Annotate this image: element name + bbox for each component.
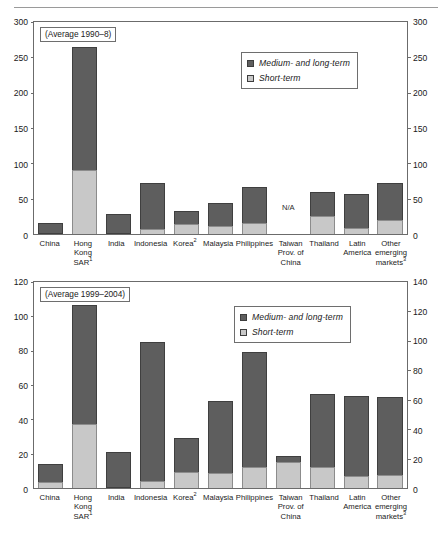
ytick-label-left: 100 bbox=[14, 313, 28, 322]
ytick-label-right: 150 bbox=[413, 125, 427, 134]
ytick-right bbox=[407, 128, 411, 129]
segment-short-term bbox=[208, 473, 233, 488]
category-line: Thailand bbox=[309, 493, 339, 502]
segment-medium-long-term bbox=[310, 192, 335, 216]
category-label: TaiwanProv. ofChina bbox=[274, 239, 307, 267]
stacked-bar bbox=[106, 452, 131, 488]
category-line: Other bbox=[381, 493, 400, 502]
category-label: Malaysia bbox=[202, 493, 235, 521]
segment-short-term bbox=[72, 424, 97, 488]
legend-swatch-icon bbox=[240, 314, 247, 321]
bar-slot bbox=[68, 282, 102, 488]
legend-item-medium-long-term: Medium- and long-term bbox=[240, 311, 343, 323]
ytick-label-left: 0 bbox=[23, 232, 28, 241]
legend-item-medium-long-term: Medium- and long-term bbox=[247, 57, 350, 69]
category-label: India bbox=[100, 493, 133, 521]
ytick-label-right: 100 bbox=[413, 161, 427, 170]
ytick-label-right: 60 bbox=[413, 397, 423, 406]
stacked-bar bbox=[140, 342, 165, 488]
legend-swatch-icon bbox=[240, 329, 247, 336]
ytick-label-right: 140 bbox=[413, 278, 427, 287]
stacked-bar bbox=[377, 397, 402, 488]
bar-group-bottom bbox=[34, 282, 407, 488]
category-line: Malaysia bbox=[203, 493, 233, 502]
category-line: Philippines bbox=[236, 493, 273, 502]
stacked-bar bbox=[208, 203, 233, 234]
stacked-bar bbox=[72, 47, 97, 234]
ytick-right bbox=[407, 370, 411, 371]
category-label: China bbox=[33, 239, 66, 267]
category-label: Otheremergingmarkets3 bbox=[374, 493, 408, 521]
segment-medium-long-term bbox=[72, 47, 97, 170]
chart-subtitle-bottom: (Average 1999–2004) bbox=[40, 287, 130, 302]
footnote-marker: 1 bbox=[89, 510, 92, 516]
segment-medium-long-term bbox=[106, 452, 131, 488]
footnote-marker: 2 bbox=[194, 491, 197, 497]
bar-slot bbox=[373, 22, 407, 234]
legend-label: Medium- and long-term bbox=[259, 58, 350, 68]
category-axis-bottom: China Hong KongSAR1 India Indonesia Kore… bbox=[33, 493, 408, 521]
stacked-bar bbox=[242, 352, 267, 488]
plot-area-top: 300 250 200 150 100 50 0 300 250 200 150… bbox=[33, 21, 408, 235]
ytick-right bbox=[407, 93, 411, 94]
segment-medium-long-term bbox=[140, 183, 165, 229]
category-label: India bbox=[100, 239, 133, 267]
category-line: Other bbox=[381, 239, 400, 248]
ytick-label-right: 40 bbox=[413, 427, 423, 436]
footnote-marker: 2 bbox=[194, 237, 197, 243]
ytick-label-right: 0 bbox=[413, 232, 418, 241]
stacked-bar bbox=[344, 194, 369, 234]
category-label: Thailand bbox=[307, 239, 340, 267]
ytick-right bbox=[407, 341, 411, 342]
stacked-bar bbox=[310, 192, 335, 234]
bar-slot bbox=[34, 282, 68, 488]
ytick-right bbox=[407, 459, 411, 460]
category-line: Latin bbox=[349, 239, 366, 248]
ytick-right bbox=[407, 400, 411, 401]
segment-short-term bbox=[242, 467, 267, 488]
bar-slot bbox=[102, 282, 136, 488]
category-line: Prov. of bbox=[278, 502, 304, 511]
stacked-bar bbox=[72, 305, 97, 488]
category-line: SAR bbox=[73, 258, 89, 267]
ytick-label-left: 150 bbox=[14, 125, 28, 134]
segment-short-term bbox=[72, 170, 97, 234]
bar-slot bbox=[373, 282, 407, 488]
segment-medium-long-term bbox=[242, 352, 267, 468]
legend-swatch-icon bbox=[247, 60, 254, 67]
category-line: SAR bbox=[73, 512, 89, 521]
legend-bottom: Medium- and long-term Short-term bbox=[234, 306, 351, 343]
ytick-label-left: 40 bbox=[18, 417, 28, 426]
bar-slot bbox=[102, 22, 136, 234]
ytick-label-left: 80 bbox=[18, 347, 28, 356]
segment-medium-long-term bbox=[242, 187, 267, 224]
category-line: Hong Kong bbox=[74, 239, 92, 257]
segment-short-term bbox=[38, 482, 63, 488]
ytick-label-left: 50 bbox=[18, 196, 28, 205]
figure-root: 300 250 200 150 100 50 0 300 250 200 150… bbox=[0, 0, 443, 536]
category-label: Malaysia bbox=[202, 239, 235, 267]
header-divider bbox=[14, 7, 438, 8]
segment-medium-long-term bbox=[140, 342, 165, 481]
ytick-right bbox=[407, 57, 411, 58]
segment-short-term bbox=[174, 224, 199, 234]
category-line: China bbox=[281, 258, 301, 267]
category-line: America bbox=[343, 502, 371, 511]
bar-slot bbox=[136, 282, 170, 488]
ytick-label-left: 20 bbox=[18, 451, 28, 460]
category-label: Korea2 bbox=[168, 493, 201, 521]
category-line: markets bbox=[376, 512, 403, 521]
ytick-right bbox=[407, 199, 411, 200]
segment-medium-long-term bbox=[174, 211, 199, 224]
category-line: America bbox=[343, 248, 371, 257]
stacked-bar bbox=[276, 456, 301, 488]
segment-short-term bbox=[208, 226, 233, 234]
segment-short-term bbox=[242, 223, 267, 234]
ytick-label-left: 100 bbox=[14, 161, 28, 170]
category-line: Korea bbox=[173, 493, 194, 502]
legend-item-short-term: Short-term bbox=[240, 326, 343, 338]
stacked-bar bbox=[310, 394, 335, 488]
category-line: Taiwan bbox=[279, 239, 303, 248]
category-label: China bbox=[33, 493, 66, 521]
ytick-label-left: 250 bbox=[14, 54, 28, 63]
